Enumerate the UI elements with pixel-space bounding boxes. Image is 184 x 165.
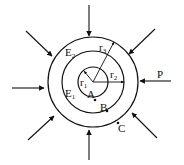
label-r3: r3 (99, 41, 107, 55)
label-p: P (157, 68, 163, 80)
pressure-arrows (12, 5, 171, 160)
pressure-arrow-top-right (129, 29, 155, 54)
label-a: A (87, 88, 95, 100)
label-e2: E2 (65, 46, 76, 60)
composite-cylinder-diagram: r1 r2 r3 E2 E1 A B C P (0, 0, 184, 165)
label-c: C (118, 122, 125, 134)
label-e1: E1 (65, 87, 76, 101)
label-r2: r2 (110, 68, 118, 82)
pressure-arrow-bottom-left (28, 116, 54, 140)
label-b: B (100, 101, 107, 113)
pressure-arrow-top-left (26, 31, 52, 56)
pressure-arrow-bottom-right (132, 113, 157, 138)
diagram-canvas: r1 r2 r3 E2 E1 A B C P (0, 0, 184, 165)
r1-arrow (84, 71, 93, 82)
